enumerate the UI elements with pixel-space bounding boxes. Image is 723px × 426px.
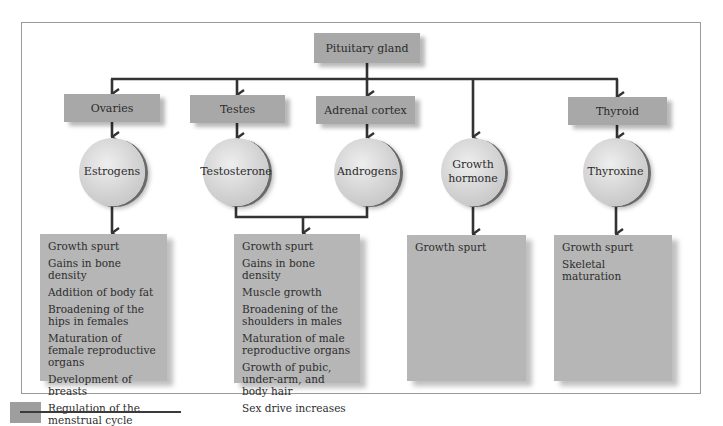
effect-item: Gains in bone density — [48, 257, 159, 281]
growth-hormone-effects-box: Growth spurt — [407, 235, 526, 381]
adrenal-cortex-label: Adrenal cortex — [324, 104, 407, 117]
growth-hormone-label-line1: Growth — [452, 158, 494, 172]
thyroid-box: Thyroid — [568, 97, 667, 125]
effect-item: Growth spurt — [415, 241, 518, 253]
testes-box: Testes — [190, 95, 285, 123]
effect-item: Growth spurt — [48, 240, 159, 252]
estrogens-circle: Estrogens — [79, 138, 145, 206]
thyroxine-circle: Thyroxine — [583, 138, 648, 206]
effect-item: Development of breasts — [48, 373, 159, 397]
estrogens-label: Estrogens — [84, 165, 140, 179]
effect-item: Growth spurt — [562, 241, 664, 253]
effect-item: Gains in bone density — [242, 257, 352, 281]
effect-item: Addition of body fat — [48, 286, 159, 298]
testes-label: Testes — [220, 103, 255, 116]
ovaries-label: Ovaries — [91, 102, 134, 115]
figure-caption-rule — [20, 411, 181, 413]
ovaries-box: Ovaries — [64, 94, 160, 122]
effect-item: Growth spurt — [242, 240, 352, 252]
estrogen-effects-box: Growth spurt Gains in bone density Addit… — [40, 234, 167, 381]
androgen-effects-box: Growth spurt Gains in bone density Muscl… — [234, 234, 360, 383]
effect-item: Maturation of male reproductive organs — [242, 332, 352, 356]
effect-item: Growth of pubic, under-arm, and body hai… — [242, 361, 352, 397]
effect-item: Broadening of the hips in females — [48, 303, 159, 327]
thyroid-label: Thyroid — [596, 105, 639, 118]
effect-item: Broadening of the shoulders in males — [242, 303, 352, 327]
thyroxine-label: Thyroxine — [588, 165, 644, 179]
effect-item: Maturation of female reproductive organs — [48, 332, 159, 368]
androgens-label: Androgens — [337, 165, 397, 179]
effect-item: Sex drive increases — [242, 402, 352, 414]
testosterone-label: Testosterone — [200, 165, 272, 179]
pituitary-gland-label: Pituitary gland — [325, 42, 408, 55]
growth-hormone-circle: Growth hormone — [441, 138, 505, 206]
testosterone-circle: Testosterone — [203, 138, 269, 206]
effect-item: Skeletal maturation — [562, 258, 664, 282]
pituitary-gland-box: Pituitary gland — [314, 33, 420, 63]
thyroxine-effects-box: Growth spurt Skeletal maturation — [554, 235, 672, 381]
growth-hormone-label-line2: hormone — [448, 172, 498, 186]
adrenal-cortex-box: Adrenal cortex — [316, 96, 415, 124]
androgens-circle: Androgens — [334, 138, 400, 206]
effect-item: Muscle growth — [242, 286, 352, 298]
effect-item: Regulation of the menstrual cycle — [48, 402, 159, 426]
